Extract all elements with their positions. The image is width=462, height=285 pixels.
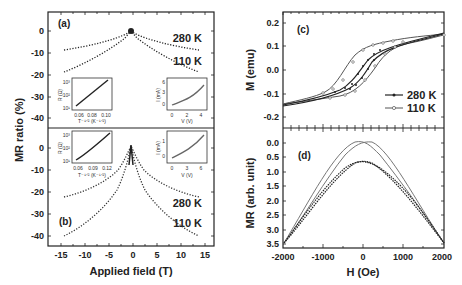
panel-c-label: (c) (297, 24, 309, 35)
panel-b-xticks: -15 -10 -5 0 5 10 15 (54, 250, 210, 260)
svg-text:V (V): V (V) (181, 118, 193, 124)
svg-text:-10: -10 (78, 250, 91, 260)
svg-text:3: 3 (162, 89, 165, 95)
svg-text:0: 0 (171, 165, 174, 171)
svg-text:1.0: 1.0 (266, 167, 279, 177)
panel-d-yticks: 0.0 0.5 1.0 1.5 2.0 2.5 3.0 3.5 (266, 138, 279, 249)
svg-text:-0.1: -0.1 (263, 89, 279, 99)
svg-text:10²: 10² (63, 145, 71, 151)
panel-b-peak (129, 145, 133, 165)
panel-b-label: (b) (59, 216, 72, 227)
panel-b-label-280k: 280 K (173, 197, 202, 209)
svg-text:R (Ω): R (Ω) (57, 142, 63, 154)
svg-text:110 K: 110 K (407, 102, 436, 114)
panel-a-label-110k: 110 K (173, 55, 202, 67)
svg-text:R (Ω): R (Ω) (57, 89, 63, 101)
svg-text:-30: -30 (31, 92, 44, 102)
svg-text:2000: 2000 (432, 252, 452, 262)
svg-text:10²: 10² (63, 92, 71, 98)
panel-a-top-ticks (48, 12, 214, 246)
svg-text:-40: -40 (31, 231, 44, 241)
svg-text:-2000: -2000 (271, 252, 294, 262)
svg-text:0.09: 0.09 (88, 165, 98, 171)
svg-text:0.5: 0.5 (266, 152, 279, 162)
svg-text:1.5: 1.5 (266, 181, 279, 191)
svg-text:5: 5 (154, 250, 159, 260)
svg-text:-20: -20 (31, 187, 44, 197)
svg-text:10: 10 (176, 250, 186, 260)
svg-text:0.06: 0.06 (73, 165, 83, 171)
svg-text:3.5: 3.5 (266, 239, 279, 249)
svg-text:15: 15 (200, 250, 210, 260)
panel-c-yticks: 0.2 0.1 0.0 -0.1 -0.2 (263, 18, 279, 122)
svg-text:0: 0 (39, 143, 44, 153)
svg-text:0.0: 0.0 (266, 65, 279, 75)
left-y-axis-label: MR ratio (%) (13, 98, 25, 163)
svg-text:3.0: 3.0 (266, 225, 279, 235)
svg-text:10¹: 10¹ (63, 158, 71, 164)
svg-text:0.2: 0.2 (266, 18, 279, 28)
panel-cd-ticks (283, 12, 444, 248)
svg-text:6: 6 (162, 79, 165, 85)
svg-text:1: 1 (162, 138, 165, 144)
svg-text:V (V): V (V) (181, 172, 193, 178)
svg-text:-5: -5 (105, 250, 113, 260)
svg-text:-40: -40 (31, 113, 44, 123)
svg-text:6: 6 (200, 165, 203, 171)
panel-d-y-axis-label: MR (arb. unit) (244, 157, 256, 228)
panel-a-label: (a) (58, 18, 70, 29)
inset-b-iv: 1 0 0 3 6 V (V) I (mA) (155, 131, 207, 178)
svg-text:0.12: 0.12 (102, 165, 112, 171)
svg-text:0: 0 (39, 26, 44, 36)
svg-text:1000: 1000 (393, 252, 413, 262)
svg-text:0: 0 (171, 112, 174, 118)
panel-a-peak-marker (128, 28, 134, 34)
svg-text:-20: -20 (31, 70, 44, 80)
figure: 0 -10 -20 -30 -40 0 -10 -20 -30 -40 -15 … (0, 0, 462, 285)
svg-text:0.0: 0.0 (266, 138, 279, 148)
svg-text:0: 0 (162, 153, 165, 159)
svg-text:2.5: 2.5 (266, 210, 279, 220)
left-x-axis-label: Applied field (T) (89, 265, 172, 277)
right-x-axis-label: H (Oe) (347, 266, 380, 278)
svg-text:3: 3 (186, 165, 189, 171)
panel-ab-frame (48, 12, 214, 246)
inset-a-resistance: 10³ 10² 10¹ 0.06 0.08 0.10 T⁻¹ᐟ² (K⁻¹ᐟ²)… (57, 78, 112, 124)
svg-text:10¹: 10¹ (63, 105, 71, 111)
panel-c-y-axis-label: M (emu) (244, 49, 256, 92)
svg-text:-30: -30 (31, 209, 44, 219)
svg-text:0: 0 (360, 252, 365, 262)
svg-text:T⁻¹ᐟ² (K⁻¹ᐟ²): T⁻¹ᐟ² (K⁻¹ᐟ²) (78, 172, 106, 178)
panel-a-yticks: 0 -10 -20 -30 -40 (31, 26, 44, 123)
svg-text:0: 0 (162, 101, 165, 107)
svg-text:0: 0 (130, 250, 135, 260)
inset-b-resistance: 10³ 10² 10¹ 0.06 0.09 0.12 T⁻¹ᐟ² (K⁻¹ᐟ²)… (57, 131, 112, 178)
svg-text:I (mA): I (mA) (155, 141, 161, 155)
panel-b-yticks: 0 -10 -20 -30 -40 (31, 143, 44, 241)
svg-text:4: 4 (200, 112, 203, 118)
svg-text:280 K: 280 K (407, 89, 436, 101)
panel-d-label: (d) (298, 150, 311, 161)
svg-text:-1000: -1000 (311, 252, 334, 262)
svg-text:-15: -15 (54, 250, 67, 260)
inset-a-iv: 6 3 0 0 2 4 V (V) I (mA) (155, 78, 207, 124)
svg-text:10³: 10³ (63, 79, 71, 85)
svg-text:-0.2: -0.2 (263, 112, 279, 122)
svg-text:-10: -10 (31, 165, 44, 175)
panel-a-label-280k: 280 K (173, 32, 202, 44)
svg-text:I (mA): I (mA) (155, 88, 161, 102)
panel-d-xticks: -2000 -1000 0 1000 2000 (271, 252, 452, 262)
panel-c-legend: 280 K 110 K (385, 89, 436, 114)
svg-text:T⁻¹ᐟ² (K⁻¹ᐟ²): T⁻¹ᐟ² (K⁻¹ᐟ²) (78, 118, 106, 124)
svg-text:-10: -10 (31, 48, 44, 58)
svg-text:2.0: 2.0 (266, 196, 279, 206)
svg-text:10³: 10³ (63, 132, 71, 138)
svg-text:0.1: 0.1 (266, 41, 279, 51)
